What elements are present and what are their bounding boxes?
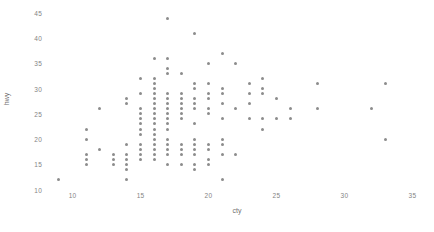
data-point	[166, 97, 169, 100]
data-point	[207, 112, 210, 115]
data-point	[166, 72, 169, 75]
plot-panel	[48, 10, 426, 188]
data-point	[166, 92, 169, 95]
data-point	[57, 178, 60, 181]
data-point	[193, 122, 196, 125]
data-point	[207, 158, 210, 161]
data-point	[261, 117, 264, 120]
data-point	[153, 82, 156, 85]
data-point	[207, 163, 210, 166]
data-point	[166, 112, 169, 115]
data-point	[112, 158, 115, 161]
data-point	[261, 87, 264, 90]
data-point	[153, 158, 156, 161]
data-point	[85, 158, 88, 161]
data-point	[248, 82, 251, 85]
data-point	[85, 128, 88, 131]
data-point	[275, 117, 278, 120]
data-point	[153, 128, 156, 131]
data-point	[139, 117, 142, 120]
data-point	[166, 122, 169, 125]
data-point	[153, 77, 156, 80]
data-point	[153, 102, 156, 105]
data-point	[234, 62, 237, 65]
data-point	[139, 77, 142, 80]
data-point	[153, 117, 156, 120]
data-point	[180, 143, 183, 146]
y-tick-label: 30	[34, 85, 42, 92]
data-point	[221, 138, 224, 141]
data-point	[85, 153, 88, 156]
data-point	[248, 117, 251, 120]
y-tick-label: 45	[34, 10, 42, 17]
data-point	[193, 32, 196, 35]
data-point	[125, 102, 128, 105]
data-point	[153, 153, 156, 156]
scatter-plot-figure: hwy 1015202530354045 cty 101520253035	[0, 0, 434, 232]
data-point	[316, 82, 319, 85]
data-point	[180, 117, 183, 120]
data-point	[166, 117, 169, 120]
data-point	[153, 87, 156, 90]
data-point	[166, 107, 169, 110]
data-point	[193, 168, 196, 171]
y-axis-title: hwy	[3, 93, 10, 105]
data-point	[139, 128, 142, 131]
data-point	[221, 102, 224, 105]
data-point	[166, 163, 169, 166]
data-point	[153, 97, 156, 100]
data-point	[221, 52, 224, 55]
data-point	[166, 128, 169, 131]
data-point	[180, 97, 183, 100]
data-point	[180, 72, 183, 75]
data-point	[261, 128, 264, 131]
y-tick-label: 40	[34, 35, 42, 42]
data-point	[98, 148, 101, 151]
data-point	[207, 62, 210, 65]
data-point	[166, 138, 169, 141]
data-point	[193, 153, 196, 156]
data-point	[221, 117, 224, 120]
data-point	[153, 112, 156, 115]
data-point	[112, 163, 115, 166]
y-tick-label: 15	[34, 161, 42, 168]
data-point	[221, 87, 224, 90]
data-point	[193, 102, 196, 105]
data-point	[180, 112, 183, 115]
data-point	[248, 102, 251, 105]
data-point	[180, 163, 183, 166]
data-point	[85, 163, 88, 166]
data-point	[180, 92, 183, 95]
data-point	[180, 148, 183, 151]
data-point	[166, 102, 169, 105]
data-point	[193, 82, 196, 85]
data-point	[193, 138, 196, 141]
x-tick-label: 15	[137, 192, 145, 199]
data-point	[193, 97, 196, 100]
data-point	[153, 148, 156, 151]
data-point	[153, 133, 156, 136]
data-point	[193, 163, 196, 166]
data-point	[139, 92, 142, 95]
data-point	[153, 138, 156, 141]
data-point	[153, 92, 156, 95]
data-point	[180, 153, 183, 156]
data-point	[166, 153, 169, 156]
data-point	[125, 97, 128, 100]
data-point	[221, 153, 224, 156]
data-point	[193, 148, 196, 151]
data-point	[139, 112, 142, 115]
x-axis-title: cty	[233, 207, 242, 214]
data-point	[275, 97, 278, 100]
data-point	[207, 143, 210, 146]
x-tick-label: 35	[409, 192, 417, 199]
data-point	[234, 107, 237, 110]
data-point	[153, 57, 156, 60]
x-tick-label: 20	[205, 192, 213, 199]
y-tick-label: 20	[34, 136, 42, 143]
data-point	[384, 82, 387, 85]
data-point	[85, 138, 88, 141]
data-point	[289, 107, 292, 110]
data-point	[125, 178, 128, 181]
x-tick-label: 30	[341, 192, 349, 199]
